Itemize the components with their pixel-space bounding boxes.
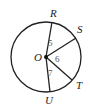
point-label-u: U xyxy=(45,94,54,106)
center-label-o: O xyxy=(34,51,42,63)
center-point-dot xyxy=(44,55,48,59)
point-label-t: T xyxy=(76,79,83,91)
angle-label-7: 7 xyxy=(48,68,53,78)
angle-labels-group: 567 xyxy=(48,38,60,78)
point-label-r: R xyxy=(49,7,57,19)
circle-diagram: O RSTU 567 xyxy=(0,0,90,106)
angle-label-5: 5 xyxy=(48,38,53,48)
point-label-s: S xyxy=(77,23,83,35)
angle-label-6: 6 xyxy=(55,54,60,64)
